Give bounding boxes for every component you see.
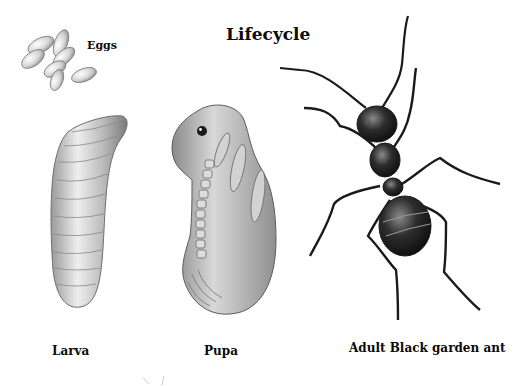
adult-ant-illustration <box>280 16 500 320</box>
eggs-illustration <box>18 28 98 93</box>
lifecycle-diagram: Lifecycle Eggs Larva Pupa Adult Black ga… <box>0 0 524 386</box>
stage-label-pupa: Pupa <box>204 344 238 358</box>
diagram-title: Lifecycle <box>226 24 310 44</box>
stage-label-adult: Adult Black garden ant <box>349 341 505 355</box>
illustration-layer <box>0 0 524 386</box>
larva-illustration <box>51 116 127 308</box>
stray-marks <box>143 376 164 385</box>
pupa-illustration <box>172 105 276 314</box>
stage-label-eggs: Eggs <box>87 39 117 52</box>
stage-label-larva: Larva <box>52 344 89 358</box>
